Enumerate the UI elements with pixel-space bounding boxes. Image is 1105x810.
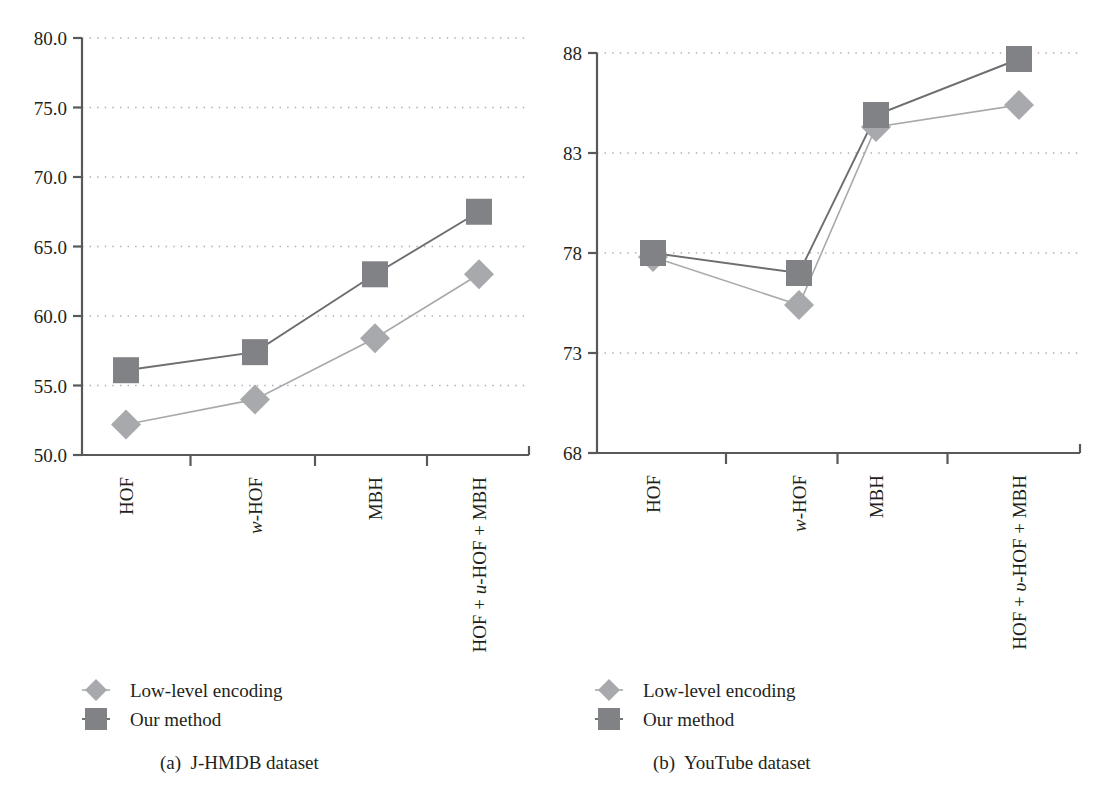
chart-b-canvas: 6873788388HOFw-HOFMBHHOF + υ-HOF + MBHLo… [553,0,1105,670]
x-category-text-1: w-HOF [245,477,266,534]
marker-low-level-3 [1004,90,1034,120]
chart-panel-b: 6873788388HOFw-HOFMBHHOF + υ-HOF + MBHLo… [553,0,1105,810]
marker-our-method-1 [242,339,268,365]
marker-low-level-1 [784,290,814,320]
marker-our-method-3 [466,199,492,225]
y-tick-label-70.0: 70.0 [34,167,67,188]
series-line-low-level [653,105,1019,305]
marker-low-level-2 [360,323,390,353]
legend-label-our-method: Our method [130,709,222,730]
marker-low-level-1 [240,384,270,414]
legend-marker-our-method [85,708,107,730]
x-category-text-2: MBH [866,475,887,519]
legend-label-low-level: Low-level encoding [130,680,283,701]
x-category-text-0: HOF [116,477,137,515]
series-line-low-level [126,274,479,424]
legend-marker-low-level [598,679,620,701]
marker-our-method-2 [362,261,388,287]
marker-our-method-0 [640,240,666,266]
x-category-label-0: HOF [643,475,664,513]
marker-our-method-2 [863,102,889,128]
x-category-label-3: HOF + u-HOF + MBH [469,477,490,653]
x-category-label-0: HOF [116,477,137,515]
y-tick-label-78: 78 [563,243,582,264]
x-category-label-2: MBH [365,477,386,521]
y-tick-label-88: 88 [563,43,582,64]
series-line-our-method [653,59,1019,273]
chart-a-canvas: 50.055.060.065.070.075.080.0HOFw-HOFMBHH… [0,0,552,670]
marker-low-level-0 [111,409,141,439]
legend-marker-low-level [85,679,107,701]
y-tick-label-73: 73 [563,343,582,364]
y-tick-label-75.0: 75.0 [34,98,67,119]
y-tick-label-65.0: 65.0 [34,237,67,258]
caption-a: (a) J-HMDB dataset [160,752,319,774]
marker-our-method-0 [113,357,139,383]
series-line-our-method [126,212,479,370]
x-category-text-3: HOF + u-HOF + MBH [469,477,490,653]
x-category-text-0: HOF [643,475,664,513]
x-category-text-2: MBH [365,477,386,521]
legend-label-low-level: Low-level encoding [643,680,796,701]
y-tick-label-60.0: 60.0 [34,306,67,327]
chart-panel-a: 50.055.060.065.070.075.080.0HOFw-HOFMBHH… [0,0,552,810]
marker-our-method-3 [1006,46,1032,72]
x-category-label-2: MBH [866,475,887,519]
y-tick-label-83: 83 [563,143,582,164]
y-tick-label-68: 68 [563,443,582,464]
figure-root: 50.055.060.065.070.075.080.0HOFw-HOFMBHH… [0,0,1105,810]
x-category-label-1: w-HOF [245,477,266,534]
x-category-label-3: HOF + υ-HOF + MBH [1009,475,1030,650]
y-tick-label-55.0: 55.0 [34,376,67,397]
x-category-text-3: HOF + υ-HOF + MBH [1009,475,1030,650]
marker-low-level-3 [464,259,494,289]
x-category-text-1: w-HOF [789,475,810,532]
x-category-label-1: w-HOF [789,475,810,532]
marker-our-method-1 [786,260,812,286]
caption-b: (b) YouTube dataset [653,752,811,774]
y-tick-label-50.0: 50.0 [34,445,67,466]
y-tick-label-80.0: 80.0 [34,28,67,49]
legend-label-our-method: Our method [643,709,735,730]
legend-marker-our-method [598,708,620,730]
